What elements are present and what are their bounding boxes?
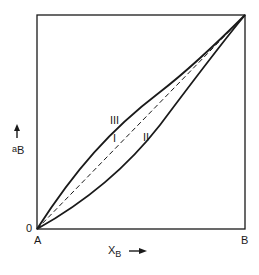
x-right-end-label-B: B — [241, 235, 248, 246]
x-axis-arrowhead-icon — [139, 248, 147, 254]
x-axis-label-sub: B — [115, 249, 121, 259]
y-axis-arrowhead-icon — [14, 124, 20, 131]
y-axis-label-main: a — [12, 144, 17, 154]
curve-I-ideal-line — [37, 15, 245, 229]
origin-label: 0 — [26, 223, 32, 234]
y-axis-label: aB — [12, 145, 24, 157]
curve-II-label: III — [110, 115, 119, 126]
x-left-end-label-A: A — [34, 235, 41, 246]
y-axis-label-sub: B — [17, 144, 24, 156]
curve-III-label: II — [143, 132, 149, 143]
curve-I-label: I — [113, 133, 116, 144]
x-axis-label: XB — [108, 245, 121, 257]
